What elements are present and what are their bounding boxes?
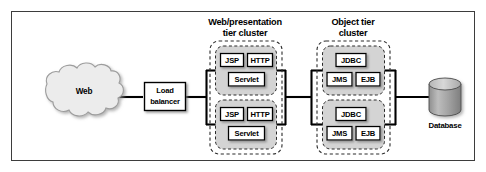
web-node-2-jsp[interactable]: JSP <box>221 108 244 121</box>
web-node-1-servlet[interactable]: Servlet <box>229 73 265 87</box>
object-tier-title-line2: cluster <box>339 28 368 38</box>
object-node-1-jms[interactable]: JMS <box>327 73 352 87</box>
web-node-1-http[interactable]: HTTP <box>248 54 273 67</box>
database[interactable]: Database <box>428 78 462 130</box>
object-node-1-jdbc[interactable]: JDBC <box>336 54 366 67</box>
load-balancer[interactable]: Load balancer <box>145 83 186 111</box>
web-cloud-label: Web <box>76 87 93 96</box>
jdbc-label-2: JDBC <box>341 110 362 119</box>
web-node-1-jsp[interactable]: JSP <box>221 54 244 67</box>
object-node-2-jms[interactable]: JMS <box>327 127 352 141</box>
web-tier-title-line2: tier cluster <box>223 28 268 38</box>
jms-label-1: JMS <box>332 75 347 84</box>
web-node-2[interactable]: JSP HTTP Servlet <box>216 100 277 149</box>
ejb-label-1: EJB <box>361 75 376 84</box>
web-tier-title-line1: Web/presentation <box>208 17 282 27</box>
jsp-label-2: JSP <box>225 110 239 119</box>
http-label-1: HTTP <box>250 56 269 65</box>
object-node-1-ejb[interactable]: EJB <box>356 73 380 87</box>
servlet-label-1: Servlet <box>235 75 260 84</box>
web-node-1[interactable]: JSP HTTP Servlet <box>216 46 277 95</box>
object-node-2-ejb[interactable]: EJB <box>356 127 380 141</box>
object-node-2[interactable]: JDBC JMS EJB <box>323 100 385 149</box>
web-node-2-servlet[interactable]: Servlet <box>229 127 265 141</box>
jsp-label-1: JSP <box>225 56 239 65</box>
database-cylinder-top <box>429 78 461 90</box>
load-balancer-label-line2: balancer <box>150 97 180 106</box>
jms-label-2: JMS <box>332 129 347 138</box>
web-node-2-http[interactable]: HTTP <box>248 108 273 121</box>
diagram-canvas: Web/presentation tier cluster Object tie… <box>0 0 486 172</box>
object-node-2-jdbc[interactable]: JDBC <box>336 108 366 121</box>
http-label-2: HTTP <box>250 110 269 119</box>
object-node-1[interactable]: JDBC JMS EJB <box>323 46 385 95</box>
load-balancer-label-line1: Load <box>156 86 174 95</box>
servlet-label-2: Servlet <box>235 129 260 138</box>
jdbc-label-1: JDBC <box>341 56 362 65</box>
object-tier-title-line1: Object tier <box>331 17 375 27</box>
database-label: Database <box>428 121 462 130</box>
ejb-label-2: EJB <box>361 129 376 138</box>
architecture-diagram: Web/presentation tier cluster Object tie… <box>0 0 486 172</box>
